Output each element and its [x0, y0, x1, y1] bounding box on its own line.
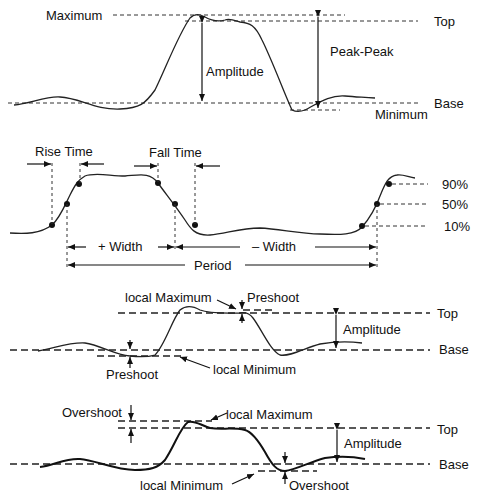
panel-overshoot: Overshoot local Maximum Amplitude Top Ba…	[10, 405, 469, 493]
label-top: Top	[434, 14, 455, 29]
label-local-maximum: local Maximum	[226, 407, 313, 422]
label-base: Base	[434, 96, 464, 111]
label-fall-time: Fall Time	[149, 145, 202, 160]
rise-90-dot	[76, 181, 82, 187]
waveform-1	[14, 15, 375, 112]
label-amplitude: Amplitude	[344, 436, 402, 451]
label-maximum: Maximum	[46, 8, 102, 23]
label-peak-peak: Peak-Peak	[330, 44, 394, 59]
label-amplitude: Amplitude	[343, 322, 401, 337]
label-preshoot-bottom: Preshoot	[106, 367, 158, 382]
fall-90-dot	[155, 180, 161, 186]
panel-timing: Rise Time Fall Time + Width – Width Peri…	[10, 144, 470, 273]
label-local-minimum: local Minimum	[140, 478, 223, 493]
local-minimum-pointer	[232, 474, 254, 484]
local-minimum-pointer	[180, 357, 210, 368]
label-local-maximum: local Maximum	[125, 290, 212, 305]
label-preshoot-top: Preshoot	[247, 290, 299, 305]
label-90-percent: 90%	[442, 177, 468, 192]
label-base: Base	[439, 457, 469, 472]
label-10-percent: 10%	[444, 219, 470, 234]
fall-10-dot	[192, 222, 198, 228]
label-base: Base	[439, 342, 469, 357]
panel-preshoot: local Maximum Preshoot Amplitude Top Bas…	[10, 290, 469, 382]
panel-amplitude: Maximum Amplitude Peak-Peak Top Base Min…	[8, 8, 464, 122]
label-overshoot-top: Overshoot	[62, 405, 122, 420]
label-plus-width: + Width	[98, 239, 142, 254]
label-minus-width: – Width	[252, 239, 296, 254]
label-top: Top	[437, 422, 458, 437]
label-local-minimum: local Minimum	[213, 362, 296, 377]
label-minimum: Minimum	[375, 107, 428, 122]
rise-10-dot	[49, 222, 55, 228]
waveform-3	[38, 307, 362, 357]
local-maximum-pointer	[217, 300, 236, 309]
waveform-measurement-diagram: Maximum Amplitude Peak-Peak Top Base Min…	[0, 0, 477, 499]
rise2-90-dot	[386, 181, 392, 187]
label-overshoot-bottom: Overshoot	[289, 478, 349, 493]
label-rise-time: Rise Time	[35, 144, 93, 159]
waveform-2	[10, 174, 415, 235]
label-top: Top	[437, 306, 458, 321]
label-amplitude: Amplitude	[206, 64, 264, 79]
label-period: Period	[194, 258, 232, 273]
label-50-percent: 50%	[442, 197, 468, 212]
local-maximum-pointer	[211, 413, 227, 420]
rise2-10-dot	[359, 223, 365, 229]
